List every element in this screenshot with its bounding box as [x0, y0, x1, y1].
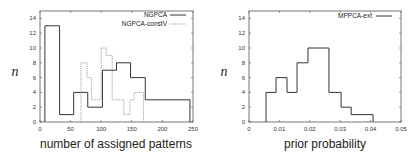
y-axis-label: n	[221, 64, 228, 79]
y-tick-label: 4	[242, 89, 246, 95]
x-tick-label: 0.01	[274, 126, 286, 132]
x-tick-label: 0	[38, 126, 42, 132]
y-tick-label: 14	[29, 15, 36, 21]
x-tick-label: 200	[157, 126, 168, 132]
y-tick-label: 12	[238, 30, 245, 36]
x-tick-label: 50	[67, 126, 74, 132]
x-axis-label: number of assigned patterns	[40, 137, 192, 151]
y-tick-label: 4	[33, 89, 37, 95]
y-tick-label: 8	[33, 60, 37, 66]
y-tick-label: 8	[242, 60, 246, 66]
x-tick-label: 250	[188, 126, 199, 132]
y-tick-label: 14	[238, 15, 245, 21]
x-tick-label: 0.04	[365, 126, 377, 132]
y-tick-label: 10	[29, 45, 36, 51]
x-tick-label: 0.05	[395, 126, 407, 132]
x-tick-label: 0.02	[304, 126, 316, 132]
legend-label: NGPCA-constV	[122, 20, 168, 27]
histogram-assigned-patterns: 02468101214050100150200250NGPCANGPCA-con…	[12, 11, 199, 151]
y-tick-label: 2	[242, 104, 246, 110]
histogram-prior-probability: 0246810121400.010.020.030.040.05MPPCA-ex…	[221, 11, 408, 151]
series-mppca-ext	[266, 48, 373, 122]
legend-label: NGPCA	[144, 11, 168, 18]
series-ngpca	[45, 26, 190, 122]
y-tick-label: 0	[33, 119, 37, 125]
y-tick-label: 12	[29, 30, 36, 36]
y-tick-label: 0	[242, 119, 246, 125]
y-tick-label: 6	[33, 75, 37, 81]
y-axis-label: n	[12, 64, 19, 79]
x-tick-label: 150	[127, 126, 138, 132]
figure: 02468101214050100150200250NGPCANGPCA-con…	[0, 0, 420, 159]
legend-label: MPPCA-ext	[338, 12, 372, 19]
plot-frame	[249, 11, 401, 122]
y-tick-label: 10	[238, 45, 245, 51]
x-tick-label: 0	[247, 126, 251, 132]
series-ngpca-constv	[81, 48, 143, 122]
x-tick-label: 0.03	[334, 126, 346, 132]
x-axis-label: prior probability	[284, 137, 366, 151]
x-tick-label: 100	[96, 126, 107, 132]
y-tick-label: 6	[242, 75, 246, 81]
y-tick-label: 2	[33, 104, 37, 110]
